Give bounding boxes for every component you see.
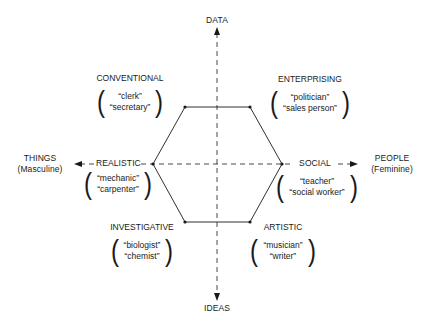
example-biologist: “biologist”	[124, 240, 161, 251]
type-group-enterprising: ENTERPRISING ( “politician” “sales perso…	[270, 74, 350, 118]
type-title-realistic: REALISTIC	[96, 158, 140, 169]
vertex-realistic	[151, 162, 154, 165]
type-group-investigative: INVESTIGATIVE ( “biologist” “chemist” )	[102, 222, 182, 266]
right-paren-icon: )	[155, 87, 163, 117]
vertex-social	[280, 162, 283, 165]
axis-label-things: THINGS (Masculine)	[14, 153, 66, 175]
arrow-up-icon	[214, 27, 220, 35]
right-paren-icon: )	[308, 236, 316, 266]
right-paren-icon: )	[144, 169, 152, 199]
example-social-worker: “social worker”	[289, 187, 344, 198]
right-paren-icon: )	[165, 236, 173, 266]
left-paren-icon: (	[97, 87, 105, 117]
hexagon	[153, 107, 282, 222]
type-title-social: SOCIAL	[293, 158, 337, 169]
example-writer: “writer”	[263, 251, 302, 262]
axis-label-data: DATA	[200, 15, 234, 26]
example-politician: “politician”	[283, 92, 337, 103]
type-title-conventional: CONVENTIONAL	[90, 73, 170, 84]
type-group-social: ( “teacher” “social worker” )	[272, 172, 362, 202]
type-group-realistic: ( “mechanic” “carpenter” )	[78, 169, 158, 199]
type-title-investigative: INVESTIGATIVE	[102, 222, 182, 233]
arrow-down-icon	[214, 293, 220, 301]
right-paren-icon: )	[350, 172, 358, 202]
vertex-investigative	[183, 220, 186, 223]
type-group-conventional: CONVENTIONAL ( “clerk” “secretary” )	[90, 73, 170, 117]
axis-label-ideas: IDEAS	[200, 303, 234, 314]
example-teacher: “teacher”	[289, 176, 344, 187]
example-carpenter: “carpenter”	[97, 184, 139, 195]
left-paren-icon: (	[276, 172, 284, 202]
arrow-left-icon	[74, 161, 82, 167]
left-paren-icon: (	[84, 169, 92, 199]
example-clerk: “clerk”	[110, 91, 151, 102]
vertex-conventional	[183, 105, 186, 108]
axis-label-people-line2: (Feminine)	[366, 164, 418, 175]
axis-label-things-line1: THINGS	[14, 153, 66, 164]
type-title-enterprising: ENTERPRISING	[270, 74, 350, 85]
axis-label-things-line2: (Masculine)	[14, 164, 66, 175]
axis-label-people: PEOPLE (Feminine)	[366, 153, 418, 175]
example-chemist: “chemist”	[124, 251, 161, 262]
example-sales-person: “sales person”	[283, 103, 337, 114]
left-paren-icon: (	[111, 236, 119, 266]
example-mechanic: “mechanic”	[97, 173, 139, 184]
right-paren-icon: )	[342, 88, 350, 118]
arrow-right-icon	[350, 161, 358, 167]
type-title-artistic: ARTISTIC	[243, 222, 323, 233]
left-paren-icon: (	[250, 236, 258, 266]
left-paren-icon: (	[270, 88, 278, 118]
example-musician: “musician”	[263, 240, 302, 251]
example-secretary: “secretary”	[110, 102, 151, 113]
type-group-artistic: ARTISTIC ( “musician” “writer” )	[243, 222, 323, 266]
vertex-enterprising	[248, 105, 251, 108]
axis-label-people-line1: PEOPLE	[366, 153, 418, 164]
